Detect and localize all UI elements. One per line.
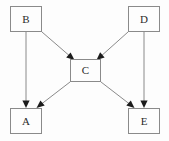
node-d-label: D: [140, 14, 148, 25]
node-a[interactable]: A: [10, 108, 42, 134]
node-c[interactable]: C: [70, 59, 101, 82]
node-d[interactable]: D: [128, 6, 160, 32]
edge-c-to-a-arrowhead: [37, 100, 45, 108]
node-a-label: A: [22, 116, 30, 127]
edge-b-to-c-line: [42, 32, 72, 58]
edge-d-to-e-arrowhead: [140, 100, 147, 108]
node-b[interactable]: B: [10, 6, 42, 32]
node-e[interactable]: E: [128, 108, 160, 134]
edge-b-to-a-arrowhead: [22, 100, 29, 108]
edge-b-to-c: [42, 32, 75, 60]
edge-c-to-e: [101, 82, 135, 108]
edge-c-to-a-line: [40, 82, 71, 106]
edge-c-to-e-arrowhead: [126, 100, 134, 108]
edge-d-to-e: [140, 32, 147, 108]
edge-c-to-a: [37, 82, 71, 108]
edge-d-to-c: [97, 32, 129, 60]
edge-d-to-c-line: [100, 32, 129, 58]
node-c-label: C: [82, 65, 89, 76]
edge-b-to-a: [22, 32, 29, 108]
node-b-label: B: [22, 14, 29, 25]
node-e-label: E: [141, 116, 148, 127]
diagram-canvas: B D C A E: [0, 0, 169, 141]
edge-c-to-e-line: [101, 82, 132, 106]
